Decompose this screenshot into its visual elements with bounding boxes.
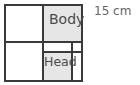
body-label: Body: [49, 12, 84, 26]
head-label: Head: [44, 56, 77, 69]
dimension-label: 15 cm: [94, 5, 131, 17]
vertical-divider-center: [42, 4, 44, 82]
horizontal-divider-head-top: [42, 51, 83, 53]
outer-border-left: [4, 4, 6, 82]
pattern-diagram: Body Head 15 cm: [0, 0, 140, 85]
